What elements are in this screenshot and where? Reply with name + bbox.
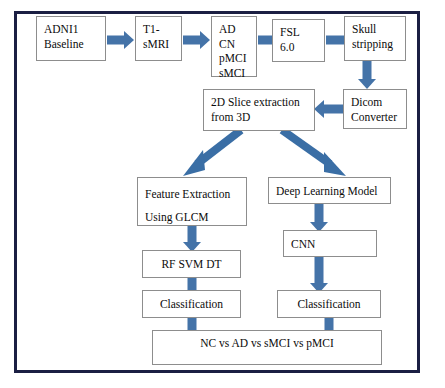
- node-dicom-converter-label: Dicom Converter: [351, 95, 402, 124]
- node-classification-left-label: Classification: [143, 297, 240, 312]
- node-rf-svm-dt-label: RF SVM DT: [143, 257, 240, 272]
- node-feature-extraction: Feature Extraction Using GLCM: [137, 177, 247, 226]
- node-final-result: NC vs AD vs sMCI vs pMCI: [152, 330, 382, 365]
- node-dicom-converter: Dicom Converter: [343, 89, 407, 129]
- arrow-dicom-to-slice: [314, 99, 344, 119]
- arrow-cnn-to-classification-right: [308, 257, 330, 293]
- node-cnn-label: CNN: [291, 236, 372, 251]
- node-adni1-baseline: ADNI1 Baseline: [36, 16, 106, 61]
- arrow-adni1-to-t1smri: [107, 30, 134, 50]
- arrow-slice-to-feature: [175, 128, 255, 180]
- node-2d-slice-extraction-label: 2D Slice extraction from 3D: [211, 95, 310, 124]
- node-feature-extraction-label: Feature Extraction Using GLCM: [145, 183, 242, 229]
- arrow-slice-to-deep-learning: [272, 128, 362, 180]
- node-classification-left: Classification: [142, 290, 241, 318]
- node-t1-smri: T1- sMRI: [135, 16, 182, 61]
- node-2d-slice-extraction: 2D Slice extraction from 3D: [203, 89, 315, 131]
- node-final-result-label: NC vs AD vs sMCI vs pMCI: [153, 336, 381, 351]
- node-skull-stripping-label: Skull stripping: [352, 22, 401, 51]
- node-skull-stripping: Skull stripping: [344, 16, 406, 61]
- node-rf-svm-dt: RF SVM DT: [142, 250, 241, 278]
- node-fsl-label: FSL 6.0: [280, 25, 320, 54]
- node-deep-learning-model-label: Deep Learning Model: [276, 183, 386, 198]
- node-diagnosis-labels-label: AD CN pMCI sMCI: [219, 22, 252, 81]
- node-diagnosis-labels: AD CN pMCI sMCI: [211, 16, 257, 77]
- node-classification-right-label: Classification: [278, 297, 380, 312]
- node-deep-learning-model: Deep Learning Model: [268, 177, 391, 204]
- node-fsl: FSL 6.0: [272, 19, 325, 62]
- flowchart-canvas: ADNI1 Baseline T1- sMRI AD CN pMCI sMCI …: [0, 0, 445, 388]
- node-t1-smri-label: T1- sMRI: [143, 22, 177, 51]
- node-adni1-baseline-label: ADNI1 Baseline: [44, 22, 101, 51]
- arrow-deep-learning-to-cnn: [308, 204, 330, 232]
- arrow-feature-to-classifiers: [181, 226, 203, 252]
- arrow-t1smri-to-labels: [183, 30, 210, 50]
- node-classification-right: Classification: [277, 290, 381, 318]
- arrow-skull-to-dicom: [356, 61, 378, 89]
- node-cnn: CNN: [283, 230, 377, 257]
